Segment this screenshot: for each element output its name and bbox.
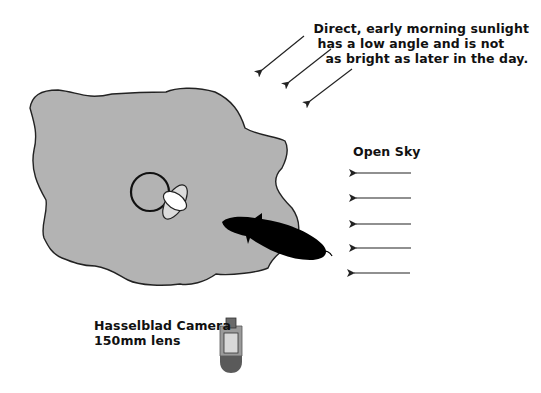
camera-caption: Hasselblad Camera 150mm lens <box>94 318 231 348</box>
sky-arrows <box>354 173 411 273</box>
camera-caption-line-1: Hasselblad Camera <box>94 318 231 333</box>
sunlight-caption-line-1: Direct, early morning sunlight <box>314 21 529 36</box>
sunlight-arrow-1 <box>262 36 304 70</box>
sunlight-arrow-3 <box>310 69 352 101</box>
open-sky-caption: Open Sky <box>353 144 421 159</box>
sunlight-caption-line-2: has a low angle and is not <box>318 36 529 51</box>
camera-caption-line-2: 150mm lens <box>94 333 231 348</box>
sunlight-caption: Direct, early morning sunlight has a low… <box>314 21 529 66</box>
ground-area <box>30 88 299 285</box>
sunlight-caption-line-3: as bright as later in the day. <box>326 51 529 66</box>
